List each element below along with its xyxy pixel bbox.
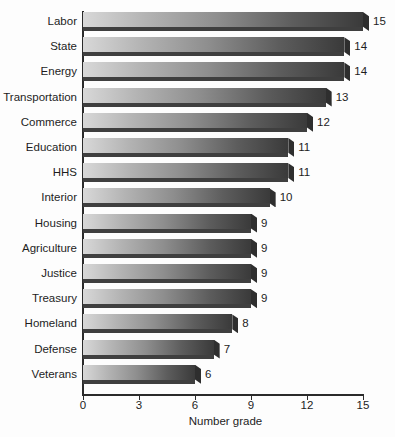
- bar-end-cap: [195, 365, 201, 384]
- y-axis-label: Agriculture: [0, 242, 77, 254]
- bar-value-label: 11: [298, 141, 310, 153]
- bar-end-cap: [251, 239, 257, 258]
- x-tick-label: 3: [124, 399, 154, 412]
- bar-end-cap: [344, 37, 350, 56]
- bar-body: [83, 138, 288, 153]
- bar-bottom-face: [83, 153, 288, 157]
- bar-end-cap: [288, 163, 294, 182]
- bar-bottom-face: [83, 128, 307, 132]
- bar-bottom-face: [83, 27, 363, 31]
- bar-end-cap: [251, 264, 257, 283]
- bar-bottom-face: [83, 380, 195, 384]
- y-axis-label: Treasury: [0, 292, 77, 304]
- bar-value-label: 7: [224, 343, 230, 355]
- x-tick-label: 0: [68, 399, 98, 412]
- y-axis-label: Defense: [0, 343, 77, 355]
- bar-value-label: 11: [298, 166, 310, 178]
- y-axis-label: Homeland: [0, 317, 77, 329]
- bar-bottom-face: [83, 304, 251, 308]
- bar-value-label: 9: [261, 217, 267, 229]
- bar-body: [83, 12, 363, 27]
- bar-value-label: 13: [336, 91, 349, 103]
- bar-bottom-face: [83, 103, 326, 107]
- y-axis-label: Labor: [0, 15, 77, 27]
- y-axis-label: Interior: [0, 191, 77, 203]
- bar-value-label: 14: [354, 65, 367, 77]
- y-axis-category-labels: LaborStateEnergyTransportationCommerceEd…: [0, 12, 77, 394]
- bar-bottom-face: [83, 279, 251, 283]
- bar-chart: LaborStateEnergyTransportationCommerceEd…: [0, 0, 395, 437]
- bar-end-cap: [307, 113, 313, 132]
- bar-bottom-face: [83, 178, 288, 182]
- x-tick-label: 6: [180, 399, 210, 412]
- bar-value-label: 15: [373, 15, 386, 27]
- bar-end-cap: [270, 188, 276, 207]
- bar-body: [83, 365, 195, 380]
- bar-end-cap: [251, 289, 257, 308]
- y-axis-label: HHS: [0, 166, 77, 178]
- bar-value-label: 12: [317, 116, 330, 128]
- bar-end-cap: [363, 12, 369, 31]
- bar-value-label: 8: [242, 317, 248, 329]
- bar-bottom-face: [83, 52, 344, 56]
- bar-value-label: 6: [205, 368, 211, 380]
- bar-body: [83, 37, 344, 52]
- bar-value-label: 9: [261, 267, 267, 279]
- bar-body: [83, 314, 232, 329]
- bar-body: [83, 88, 326, 103]
- bar-bottom-face: [83, 329, 232, 333]
- x-tick-label: 15: [348, 399, 378, 412]
- x-axis-title: Number grade: [0, 415, 395, 427]
- bar-end-cap: [214, 340, 220, 359]
- bar-body: [83, 62, 344, 77]
- bar-value-label: 9: [261, 292, 267, 304]
- y-axis-label: Energy: [0, 65, 77, 77]
- bar-bottom-face: [83, 229, 251, 233]
- bar-body: [83, 289, 251, 304]
- y-axis-label: Justice: [0, 267, 77, 279]
- bar-body: [83, 214, 251, 229]
- y-axis-label: Education: [0, 141, 77, 153]
- x-tick-label: 9: [236, 399, 266, 412]
- bar-bottom-face: [83, 203, 270, 207]
- bar-end-cap: [326, 88, 332, 107]
- bar-end-cap: [251, 214, 257, 233]
- bar-value-label: 14: [354, 40, 367, 52]
- bar-body: [83, 264, 251, 279]
- bar-value-label: 9: [261, 242, 267, 254]
- y-axis-label: Commerce: [0, 116, 77, 128]
- bar-body: [83, 188, 270, 203]
- bar-bottom-face: [83, 254, 251, 258]
- x-axis-line: [82, 394, 364, 396]
- bar-bottom-face: [83, 355, 214, 359]
- bar-end-cap: [288, 138, 294, 157]
- bar-end-cap: [344, 62, 350, 81]
- bar-end-cap: [232, 314, 238, 333]
- y-axis-label: Housing: [0, 217, 77, 229]
- y-axis-label: Transportation: [0, 91, 77, 103]
- bar-body: [83, 163, 288, 178]
- bar-body: [83, 113, 307, 128]
- bar-body: [83, 340, 214, 355]
- y-axis-label: Veterans: [0, 368, 77, 380]
- y-axis-label: State: [0, 40, 77, 52]
- x-tick-label: 12: [292, 399, 322, 412]
- bar-value-label: 10: [280, 191, 293, 203]
- bar-body: [83, 239, 251, 254]
- plot-area: [83, 12, 363, 394]
- bar-bottom-face: [83, 77, 344, 81]
